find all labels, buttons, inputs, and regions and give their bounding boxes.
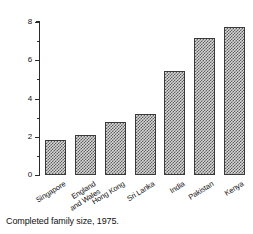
y-axis-major-tick	[35, 22, 40, 23]
y-axis-minor-tick	[37, 156, 40, 157]
chart-figure: No in completed family 02468 SingaporeEn…	[0, 0, 253, 234]
x-axis-tick-label: Pakistan	[110, 180, 216, 234]
x-axis-tick-label: Kenya	[139, 180, 245, 234]
bar	[105, 122, 126, 175]
y-axis-tick-label: 4	[12, 95, 32, 103]
bar	[224, 27, 245, 175]
y-axis-tick-label: 6	[12, 56, 32, 64]
y-axis-minor-tick	[37, 41, 40, 42]
plot-area	[41, 22, 249, 175]
y-axis-tick-label: 8	[12, 18, 32, 26]
y-axis-major-tick	[35, 60, 40, 61]
y-axis-tick-label: 2	[12, 133, 32, 141]
y-axis-major-tick	[35, 99, 40, 100]
chart-caption: Completed family size, 1975.	[6, 216, 119, 227]
y-axis-major-tick	[35, 175, 40, 176]
bar	[194, 38, 215, 175]
y-axis-major-tick	[35, 137, 40, 138]
bar	[164, 71, 185, 175]
y-axis-minor-tick	[37, 118, 40, 119]
y-axis-minor-tick	[37, 79, 40, 80]
bar	[45, 140, 66, 175]
bar	[75, 135, 96, 175]
y-axis-tick-label: 0	[12, 171, 32, 179]
bar	[135, 114, 156, 175]
